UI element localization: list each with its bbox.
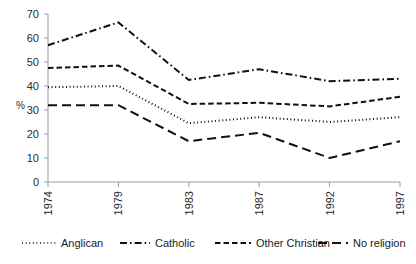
x-axis-tick-labels: 197419791983198719921997: [42, 191, 406, 215]
series-lines: [48, 22, 400, 158]
y-axis-tick-marks: [44, 14, 48, 182]
y-axis-tick-labels: 010203040506070: [27, 8, 39, 188]
y-axis-title: %: [16, 100, 25, 111]
line-chart: 010203040506070 % 1974197919831987199219…: [0, 0, 416, 264]
y-tick-label: 50: [27, 56, 39, 68]
y-axis-title-text: %: [16, 100, 25, 111]
y-tick-label: 40: [27, 80, 39, 92]
legend-label-no-religion: No religion: [353, 237, 406, 249]
chart-canvas: 010203040506070 % 1974197919831987199219…: [0, 0, 416, 264]
y-tick-label: 10: [27, 152, 39, 164]
x-tick-label: 1992: [324, 191, 336, 215]
legend-label-anglican: Anglican: [61, 237, 103, 249]
x-axis-tick-marks: [48, 182, 400, 187]
x-tick-label: 1987: [253, 191, 265, 215]
x-tick-label: 1974: [42, 191, 54, 215]
y-tick-label: 70: [27, 8, 39, 20]
y-tick-label: 0: [33, 176, 39, 188]
y-tick-label: 20: [27, 128, 39, 140]
y-tick-label: 30: [27, 104, 39, 116]
x-tick-label: 1997: [394, 191, 406, 215]
legend-label-catholic: Catholic: [155, 237, 195, 249]
series-line-no-religion: [48, 105, 400, 158]
y-tick-label: 60: [27, 32, 39, 44]
axis-lines: [48, 14, 400, 182]
x-tick-label: 1983: [183, 191, 195, 215]
series-line-catholic: [48, 22, 400, 81]
chart-legend: AnglicanCatholicOther ChristianNo religi…: [22, 237, 406, 249]
series-line-other-christian: [48, 66, 400, 107]
x-tick-label: 1979: [112, 191, 124, 215]
